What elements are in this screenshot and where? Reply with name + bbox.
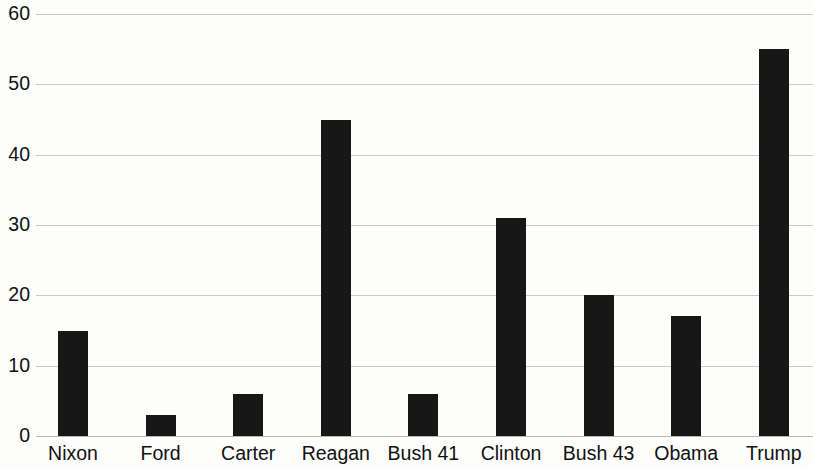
x-tick-label-ford: Ford	[141, 440, 181, 466]
x-tick-label-clinton: Clinton	[481, 440, 542, 466]
x-tick-label-bush-41: Bush 41	[388, 440, 460, 466]
bars-layer	[36, 0, 813, 437]
bar-chart: 0102030405060 NixonFordCarterReaganBush …	[0, 0, 813, 469]
bar-bush-43	[584, 295, 614, 436]
x-tick-label-obama: Obama	[654, 440, 718, 466]
y-tick-label-0: 0	[0, 426, 30, 446]
y-tick-label-40: 40	[0, 145, 30, 165]
y-tick-label-10: 10	[0, 356, 30, 376]
bar-reagan	[321, 120, 351, 437]
y-axis-tick-labels: 0102030405060	[0, 0, 30, 437]
x-tick-label-nixon: Nixon	[48, 440, 98, 466]
y-tick-label-30: 30	[0, 215, 30, 235]
bar-nixon	[58, 331, 88, 437]
bar-clinton	[496, 218, 526, 436]
x-tick-label-reagan: Reagan	[302, 440, 370, 466]
x-tick-label-bush-43: Bush 43	[563, 440, 635, 466]
y-tick-label-20: 20	[0, 285, 30, 305]
x-axis-tick-labels: NixonFordCarterReaganBush 41ClintonBush …	[36, 440, 813, 469]
x-tick-label-trump: Trump	[746, 440, 802, 466]
x-tick-label-carter: Carter	[221, 440, 275, 466]
y-tick-label-50: 50	[0, 74, 30, 94]
bar-obama	[671, 316, 701, 436]
bar-carter	[233, 394, 263, 436]
bar-trump	[759, 49, 789, 436]
bar-ford	[146, 415, 176, 436]
y-tick-label-60: 60	[0, 4, 30, 24]
bar-bush-41	[408, 394, 438, 436]
